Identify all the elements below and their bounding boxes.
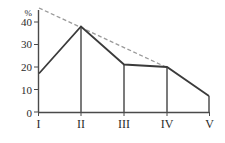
x-tick-label-V: V (205, 117, 214, 131)
x-tick-label-I: I (37, 117, 41, 131)
chart-figure: % 40 30 20 10 0 (0, 0, 225, 143)
y-tick-label-10: 10 (21, 84, 33, 96)
chart-plot-area: % 40 30 20 10 0 (0, 0, 225, 143)
x-tick-label-III: III (118, 117, 130, 131)
y-tick-label-30: 30 (21, 38, 33, 50)
trend-line-dashed (39, 8, 167, 68)
y-tick-label-40: 40 (21, 16, 33, 28)
x-tick-label-IV: IV (161, 117, 174, 131)
y-tick-label-0: 0 (27, 107, 33, 119)
x-tick-label-II: II (77, 117, 85, 131)
y-axis-ticks (34, 22, 38, 112)
drop-lines (81, 27, 209, 113)
y-tick-label-20: 20 (21, 61, 33, 73)
